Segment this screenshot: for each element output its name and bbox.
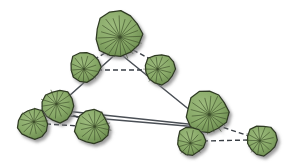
diagram-background <box>0 0 287 168</box>
canopy-center <box>189 142 191 144</box>
canopy-center <box>157 68 159 70</box>
canopy-center <box>83 68 85 70</box>
canopy-center <box>93 125 95 127</box>
canopy-center <box>55 103 57 105</box>
canopy-center <box>33 121 35 123</box>
canopy-center <box>118 36 121 39</box>
tree-canopy-diagram <box>0 0 287 168</box>
canopy-center <box>259 140 261 142</box>
diagram-canvas <box>0 0 287 168</box>
canopy-center <box>208 113 211 116</box>
